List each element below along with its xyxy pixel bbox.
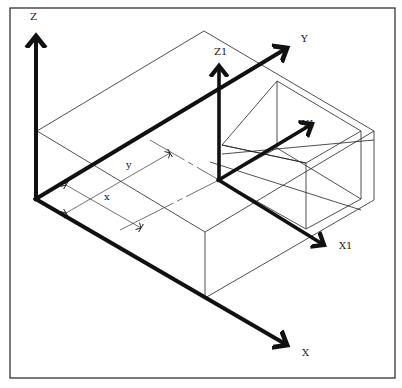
y-axis — [34, 48, 287, 200]
coordinate-system-diagram: y x Z Y X Z1 Y1 X1 — [0, 0, 402, 388]
dimension-y-line — [66, 153, 170, 213]
dimension-x-label: x — [104, 191, 110, 202]
figure-border — [10, 8, 395, 378]
x-axis — [34, 198, 287, 345]
y1-axis — [217, 124, 312, 181]
main-axes — [34, 36, 287, 345]
y1-axis-label: Y1 — [301, 118, 315, 129]
z1-axis-label: Z1 — [214, 46, 227, 57]
dimension-lines — [66, 140, 219, 230]
x1-axis — [217, 179, 324, 245]
y-axis-label: Y — [300, 33, 308, 44]
x1-axis-label: X1 — [339, 240, 352, 251]
dimension-y-label: y — [125, 159, 132, 170]
workpiece-outline — [36, 31, 374, 298]
x-axis-label: X — [302, 347, 310, 358]
z-axis-label: Z — [30, 11, 37, 22]
pocket-outline — [210, 81, 374, 229]
